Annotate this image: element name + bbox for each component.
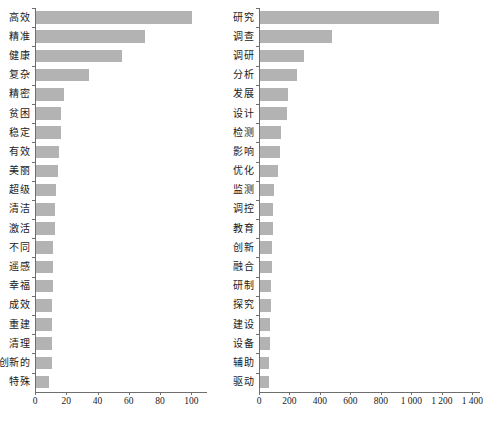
category-label: 高效 [9,13,30,23]
category-label: 创新 [233,243,254,253]
x-tick-label: 40 [93,397,103,407]
bar-row: 美丽 [35,162,207,181]
category-label: 精密 [9,89,30,99]
y-tick-mark [256,353,259,354]
y-tick-mark [32,85,35,86]
bar-row: 稳定 [35,123,207,142]
bar [260,357,269,370]
bar [36,184,56,197]
x-tick-mark [129,392,130,395]
bar-row: 影响 [259,142,480,161]
x-tick-label: 100 [184,397,198,407]
bar [260,337,270,350]
bar [36,280,53,293]
category-label: 创新的 [0,358,30,368]
bar [36,69,89,82]
bar-row: 有效 [35,142,207,161]
category-label: 优化 [233,166,254,176]
bar [36,11,192,24]
y-tick-mark [32,162,35,163]
x-tick-label: 1 200 [431,397,452,407]
bar [260,299,271,312]
category-label: 影响 [233,147,254,157]
bar-row: 清洁 [35,200,207,219]
x-tick-label: 600 [343,397,357,407]
bar-row: 辅助 [259,353,480,372]
y-tick-mark [256,277,259,278]
bar [260,376,269,389]
category-label: 精准 [9,32,30,42]
bar [36,261,53,274]
bar [36,357,52,370]
bar-row: 调研 [259,46,480,65]
x-tick-label: 200 [282,397,296,407]
y-tick-mark [32,104,35,105]
y-tick-mark [256,46,259,47]
bar-row: 融合 [259,257,480,276]
x-axis-left: 020406080100 [35,392,207,393]
x-tick-mark [442,392,443,395]
category-label: 幸福 [9,281,30,291]
category-label: 驱动 [233,377,254,387]
y-tick-mark [32,27,35,28]
chart-left-adjectives: 高效精准健康复杂精密贫困稳定有效美丽超级清洁激活不同遥感幸福成效重建清理创新的特… [0,0,232,435]
bar [36,146,59,159]
bar [36,376,49,389]
category-label: 检测 [233,128,254,138]
bar [36,30,145,43]
bar [260,50,304,63]
y-tick-mark [256,142,259,143]
y-tick-mark [256,296,259,297]
bar [260,165,278,178]
bar-row: 检测 [259,123,480,142]
bar-row: 探究 [259,296,480,315]
bar [260,11,439,24]
bar-row: 分析 [259,66,480,85]
y-tick-mark [256,66,259,67]
bar [260,30,332,43]
bar [260,88,288,101]
x-tick-mark [259,392,260,395]
bar [260,241,272,254]
category-label: 不同 [9,243,30,253]
y-tick-mark [32,123,35,124]
bar-rows-right: 研究调查调研分析发展设计检测影响优化监测调控教育创新融合研制探究建设设备辅助驱动 [259,8,480,392]
bar-row: 监测 [259,181,480,200]
category-label: 激活 [9,224,30,234]
y-tick-mark [256,373,259,374]
y-tick-mark [256,334,259,335]
bar-row: 研究 [259,8,480,27]
category-label: 教育 [233,224,254,234]
bar [36,203,55,216]
bar-row: 不同 [35,238,207,257]
category-label: 研究 [233,13,254,23]
y-tick-mark [32,142,35,143]
y-tick-mark [32,373,35,374]
y-tick-mark [256,257,259,258]
y-tick-mark [256,315,259,316]
category-label: 重建 [9,320,30,330]
y-tick-mark [256,123,259,124]
bar-row: 教育 [259,219,480,238]
x-tick-label: 0 [257,397,262,407]
category-label: 健康 [9,51,30,61]
y-tick-mark [256,200,259,201]
y-tick-mark [32,181,35,182]
y-tick-mark [32,277,35,278]
bar-row: 重建 [35,315,207,334]
bar-row: 高效 [35,8,207,27]
bar-row: 健康 [35,46,207,65]
y-tick-mark [32,219,35,220]
x-tick-label: 60 [124,397,134,407]
bar [260,126,281,139]
y-tick-mark [32,238,35,239]
x-axis-right: 02004006008001 0001 2001 400 [259,392,480,393]
x-tick-mark [191,392,192,395]
y-tick-mark [32,334,35,335]
bar [36,299,52,312]
bar-row: 设备 [259,334,480,353]
y-tick-mark [32,8,35,9]
category-label: 稳定 [9,128,30,138]
bar-row: 设计 [259,104,480,123]
